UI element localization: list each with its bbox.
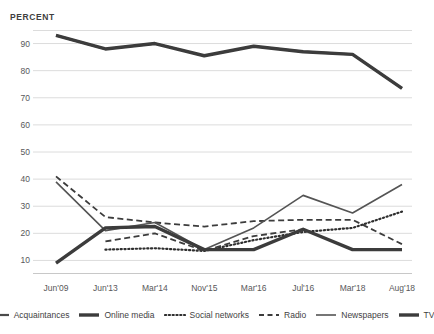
- y-tick-label: 60: [8, 120, 30, 130]
- legend-label: Social networks: [190, 310, 250, 320]
- y-tick-label: 40: [8, 174, 30, 184]
- line-chart-svg: [33, 30, 412, 274]
- legend-swatch-dashed: [258, 311, 280, 319]
- x-tick-label: Aug'18: [389, 283, 415, 293]
- legend-item-acquaintances[interactable]: Acquaintances: [0, 310, 69, 320]
- legend-swatch-solid: [78, 311, 100, 319]
- series-line-newspapers: [56, 182, 402, 250]
- legend-label: TV: [424, 310, 434, 320]
- y-axis-title: PERCENT: [10, 12, 55, 22]
- x-tick-label: Jul'16: [292, 283, 314, 293]
- y-tick-label: 80: [8, 66, 30, 76]
- legend-label: Newspapers: [341, 310, 388, 320]
- legend-label: Radio: [284, 310, 306, 320]
- series-line-radio: [56, 176, 402, 244]
- y-tick-label: 90: [8, 39, 30, 49]
- x-tick-label: Mar'16: [241, 283, 267, 293]
- y-tick-label: 70: [8, 93, 30, 103]
- legend-swatch-solid: [315, 311, 337, 319]
- series-lines: [56, 35, 402, 263]
- legend-item-radio[interactable]: Radio: [258, 310, 306, 320]
- x-tick-label: Jun'09: [44, 283, 69, 293]
- y-tick-label: 50: [8, 147, 30, 157]
- legend-item-social-networks[interactable]: Social networks: [164, 310, 250, 320]
- legend-label: Acquaintances: [14, 310, 70, 320]
- legend-swatch-solid: [398, 311, 420, 319]
- y-tick-label: 20: [8, 228, 30, 238]
- legend-swatch-solid: [0, 311, 10, 319]
- legend-swatch-dotted: [164, 311, 186, 319]
- plot-area: [33, 30, 412, 274]
- y-tick-label: 30: [8, 201, 30, 211]
- x-tick-label: Mar'18: [340, 283, 366, 293]
- chart-legend: AcquaintancesOnline mediaSocial networks…: [0, 310, 422, 320]
- legend-item-newspapers[interactable]: Newspapers: [315, 310, 388, 320]
- series-line-online-media: [56, 227, 402, 264]
- legend-item-online-media[interactable]: Online media: [78, 310, 154, 320]
- series-line-social-networks: [105, 212, 402, 251]
- legend-label: Online media: [104, 310, 154, 320]
- legend-item-tv[interactable]: TV: [398, 310, 434, 320]
- x-tick-label: Mar'14: [142, 283, 168, 293]
- x-tick-label: Nov'15: [191, 283, 217, 293]
- y-tick-label: 10: [8, 255, 30, 265]
- x-tick-label: Jun'13: [93, 283, 118, 293]
